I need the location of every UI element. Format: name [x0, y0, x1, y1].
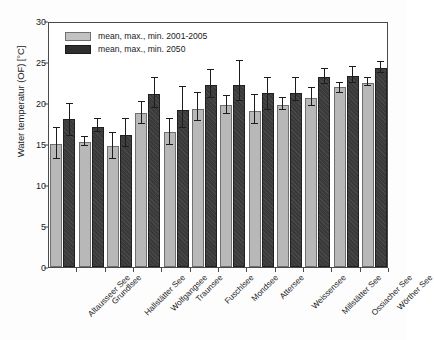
error-cap-light: [364, 85, 371, 86]
bar-group: [50, 23, 76, 267]
bar-dark: [347, 76, 359, 267]
error-bar-light: [311, 88, 312, 106]
bar-dark: [233, 85, 245, 267]
error-cap-light: [166, 118, 173, 119]
x-tick-mark: [331, 268, 332, 272]
bar-group: [334, 23, 360, 267]
bar-group: [220, 23, 246, 267]
error-cap-light: [336, 92, 343, 93]
bar-light: [135, 113, 147, 267]
plot-area: mean, max., min. 2001-2005 mean, max., m…: [48, 22, 388, 268]
x-tick-label: Attersee: [277, 273, 305, 301]
error-bar-light: [56, 128, 57, 159]
bar-group: [192, 23, 218, 267]
legend-item: mean, max., min. 2050: [65, 44, 207, 54]
error-cap-dark: [179, 127, 186, 128]
error-cap-dark: [151, 107, 158, 108]
error-cap-light: [194, 120, 201, 121]
error-bar-dark: [182, 87, 183, 128]
error-cap-dark: [264, 109, 271, 110]
bar-light: [220, 105, 232, 267]
x-tick-mark: [275, 268, 276, 272]
error-cap-light: [53, 127, 60, 128]
x-tick-label: Fuschlsee: [223, 273, 256, 306]
error-cap-light: [194, 92, 201, 93]
y-tick-label: 20: [0, 99, 46, 109]
bar-dark: [375, 68, 387, 267]
bar-group: [135, 23, 161, 267]
error-cap-light: [336, 82, 343, 83]
x-tick-mark: [76, 268, 77, 272]
error-cap-dark: [94, 131, 101, 132]
error-bar-dark: [267, 78, 268, 109]
bar-light: [362, 83, 374, 268]
error-cap-dark: [66, 135, 73, 136]
error-cap-light: [81, 145, 88, 146]
error-cap-dark: [207, 97, 214, 98]
bar-dark: [120, 135, 132, 267]
x-tick-mark: [190, 268, 191, 272]
x-tick-mark: [303, 268, 304, 272]
error-cap-dark: [264, 77, 271, 78]
error-cap-dark: [122, 118, 129, 119]
error-bar-dark: [352, 67, 353, 83]
error-bar-light: [141, 102, 142, 124]
bar-light: [277, 105, 289, 267]
bar-light: [305, 98, 317, 267]
x-tick-mark: [161, 268, 162, 272]
x-tick-mark: [246, 268, 247, 272]
error-bar-light: [197, 93, 198, 121]
bar-light: [334, 87, 346, 267]
bar-dark: [148, 94, 160, 267]
error-cap-dark: [236, 60, 243, 61]
bar-dark: [290, 93, 302, 267]
error-cap-light: [138, 101, 145, 102]
error-cap-dark: [151, 77, 158, 78]
error-bar-dark: [239, 61, 240, 100]
error-cap-light: [109, 158, 116, 159]
x-tick-mark: [360, 268, 361, 272]
error-cap-light: [138, 123, 145, 124]
error-cap-light: [53, 158, 60, 159]
x-tick-mark: [218, 268, 219, 272]
error-bar-dark: [154, 78, 155, 108]
bar-group: [249, 23, 275, 267]
bar-light: [249, 111, 261, 267]
error-cap-dark: [321, 68, 328, 69]
error-cap-dark: [349, 82, 356, 83]
error-cap-light: [223, 95, 230, 96]
bar-group: [79, 23, 105, 267]
bar-light: [107, 146, 119, 267]
y-tick-label: 15: [0, 140, 46, 150]
bar-light: [192, 109, 204, 267]
error-bar-light: [169, 119, 170, 145]
legend-label-light: mean, max., min. 2001-2005: [98, 31, 207, 41]
bar-group: [164, 23, 190, 267]
x-tick-label: Weissensee: [310, 273, 348, 311]
error-cap-light: [109, 132, 116, 133]
bar-dark: [177, 110, 189, 267]
y-tick-label: 5: [0, 222, 46, 232]
bar-dark: [205, 85, 217, 267]
error-cap-dark: [179, 86, 186, 87]
y-tick-label: 10: [0, 181, 46, 191]
error-cap-light: [81, 136, 88, 137]
bar-group: [362, 23, 388, 267]
x-tick-mark: [105, 268, 106, 272]
error-bar-dark: [69, 104, 70, 136]
y-tick-label: 0: [0, 263, 46, 273]
bar-light: [164, 132, 176, 267]
x-tick-mark: [388, 268, 389, 272]
bar-dark: [318, 77, 330, 267]
error-cap-light: [279, 97, 286, 98]
error-cap-light: [251, 94, 258, 95]
bar-light: [50, 144, 62, 267]
error-cap-dark: [292, 100, 299, 101]
error-bar-light: [226, 96, 227, 115]
error-bar-light: [112, 133, 113, 158]
error-cap-dark: [377, 72, 384, 73]
error-cap-light: [279, 109, 286, 110]
error-cap-dark: [122, 146, 129, 147]
error-cap-light: [166, 144, 173, 145]
bar-group: [107, 23, 133, 267]
